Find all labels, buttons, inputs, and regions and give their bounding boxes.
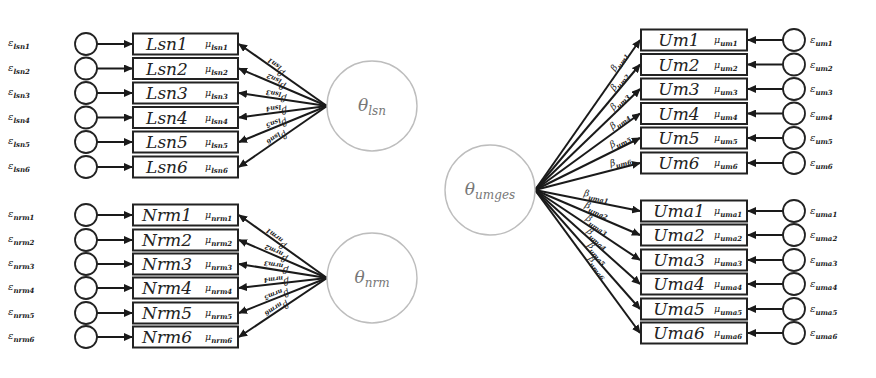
indicator-uma2[interactable]: Uma2μuma2εuma2	[641, 224, 837, 246]
error-label-subscript: um5	[815, 137, 832, 146]
error-label-subscript: uma5	[815, 308, 837, 317]
loading-label-subscript: um2	[615, 73, 632, 91]
loading-label-subscript: lsn6	[264, 130, 282, 146]
error-label-subscript: nrm4	[13, 286, 34, 295]
indicator-group-um: Um1μum1εum1Um2μum2εum2Um3μum3εum3Um4μum4…	[641, 29, 833, 174]
error-label-subscript: um1	[815, 39, 832, 48]
error-term-circle	[783, 322, 805, 344]
error-label-subscript: um2	[815, 64, 832, 73]
error-label-subscript: lsn5	[13, 140, 30, 149]
indicator-label: Um3	[658, 79, 699, 99]
indicator-uma5[interactable]: Uma5μuma5εuma5	[641, 298, 837, 320]
error-term-circle	[783, 224, 805, 246]
error-label-subscript: um3	[815, 88, 832, 97]
intercept-label-subscript: nrm3	[211, 263, 232, 272]
error-term-circle	[75, 131, 97, 153]
loading-label-subscript: nrm5	[262, 287, 284, 302]
theta-subscript: nrm	[365, 276, 390, 290]
error-term-circle	[75, 33, 97, 55]
loading-label-subscript: um5	[615, 136, 633, 151]
error-label: εum4	[810, 108, 833, 122]
loading-label-subscript: um3	[615, 93, 633, 110]
error-label-subscript: nrm5	[13, 311, 34, 320]
indicator-label: Um1	[658, 30, 699, 50]
indicator-um2[interactable]: Um2μum2εum2	[641, 54, 833, 76]
indicator-uma4[interactable]: Uma4μuma4εuma4	[641, 273, 837, 295]
error-label: εum5	[810, 132, 833, 146]
indicator-label: Lsn4	[145, 108, 188, 128]
error-label-subscript: lsn3	[13, 91, 30, 100]
error-term-circle	[783, 127, 805, 149]
indicator-um3[interactable]: Um3μum3εum3	[641, 78, 833, 100]
error-label-subscript: nrm1	[13, 213, 34, 222]
error-term-circle	[783, 298, 805, 320]
loading-label-subscript: um4	[615, 114, 633, 130]
intercept-label-subscript: uma4	[720, 283, 742, 292]
intercept-label-subscript: nrm4	[211, 287, 232, 296]
loading-label-subscript: um6	[615, 158, 633, 170]
indicator-uma3[interactable]: Uma3μuma3εuma3	[641, 249, 837, 271]
latent-lsn[interactable]: θlsn	[327, 61, 417, 151]
intercept-label-subscript: lsn6	[211, 166, 228, 175]
indicator-group-lsn: Lsn1μlsn1εlsn1Lsn2μlsn2εlsn2Lsn3μlsn3εls…	[8, 33, 238, 178]
loading-label: βlsn3	[264, 88, 288, 104]
theta-symbol: θ	[465, 179, 475, 199]
error-label-subscript: nrm3	[13, 262, 34, 271]
indicator-um5[interactable]: Um5μum5εum5	[641, 127, 833, 149]
error-label: εlsn1	[8, 37, 30, 51]
indicator-label: Uma4	[653, 274, 704, 294]
error-label: εum6	[810, 157, 833, 171]
error-label-subscript: um4	[815, 113, 832, 122]
indicator-label: Nrm6	[141, 327, 192, 347]
error-label-subscript: lsn6	[13, 165, 30, 174]
error-term-circle	[783, 78, 805, 100]
error-label: εlsn6	[8, 160, 30, 174]
indicator-label: Lsn6	[145, 157, 188, 177]
intercept-label-subscript: lsn1	[211, 43, 228, 52]
error-label: εuma2	[810, 229, 837, 243]
indicator-label: Lsn3	[145, 83, 188, 103]
error-term-circle	[75, 326, 97, 348]
indicator-label: Uma2	[653, 225, 704, 245]
intercept-label-subscript: lsn2	[211, 68, 228, 77]
latent-umges[interactable]: θumges	[445, 145, 535, 235]
indicator-uma1[interactable]: Uma1μuma1εuma1	[641, 200, 837, 222]
error-label-subscript: lsn2	[13, 67, 30, 76]
intercept-label-subscript: uma5	[720, 308, 742, 317]
error-label: εuma6	[810, 327, 837, 341]
error-label-subscript: lsn4	[13, 116, 30, 125]
error-label-subscript: uma2	[815, 234, 837, 243]
error-term-circle	[75, 277, 97, 299]
indicator-um6[interactable]: Um6μum6εum6	[641, 152, 833, 174]
indicator-label: Um4	[658, 104, 699, 124]
error-label: εum3	[810, 83, 833, 97]
indicator-label: Nrm2	[141, 230, 192, 250]
nodes-layer: Lsn1μlsn1εlsn1Lsn2μlsn2εlsn2Lsn3μlsn3εls…	[8, 29, 837, 348]
loading-label-subscript: nrm4	[263, 274, 284, 284]
loading-label: βum1	[608, 50, 631, 76]
indicator-um4[interactable]: Um4μum4εum4	[641, 103, 833, 125]
indicator-uma6[interactable]: Uma6μuma6εuma6	[641, 322, 837, 344]
latent-nrm[interactable]: θnrm	[327, 233, 417, 323]
intercept-label-subscript: nrm2	[211, 239, 232, 248]
indicator-label: Nrm5	[141, 303, 192, 323]
error-label: εuma3	[810, 254, 837, 268]
indicator-label: Uma5	[653, 299, 704, 319]
loading-label: βum2	[607, 69, 632, 95]
error-label: εlsn5	[8, 135, 30, 149]
indicator-label: Nrm3	[141, 254, 192, 274]
intercept-label-subscript: uma2	[720, 234, 742, 243]
indicator-um1[interactable]: Um1μum1εum1	[641, 29, 833, 51]
indicator-label: Uma3	[653, 250, 704, 270]
theta-symbol: θ	[358, 95, 368, 115]
indicator-label: Uma6	[653, 323, 705, 343]
error-label-subscript: lsn1	[13, 42, 30, 51]
indicator-group-uma: Uma1μuma1εuma1Uma2μuma2εuma2Uma3μuma3εum…	[641, 200, 837, 344]
error-term-circle	[75, 156, 97, 178]
error-label: εnrm2	[8, 233, 35, 247]
error-label: εuma1	[810, 205, 837, 219]
indicator-label: Um5	[658, 128, 699, 148]
error-term-circle	[783, 249, 805, 271]
error-label: εlsn2	[8, 62, 30, 76]
error-label: εnrm1	[8, 208, 34, 222]
